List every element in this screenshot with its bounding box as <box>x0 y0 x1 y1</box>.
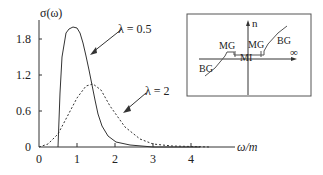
inset-bg-right-label: BG <box>277 35 291 47</box>
inset-mg-left-label: MG <box>219 40 235 52</box>
y-tick-label-1-2: 1.2 <box>16 69 31 81</box>
x-tick-label-2: 2 <box>112 153 118 165</box>
x-tick-label-3: 3 <box>150 153 156 165</box>
x-tick-label-1: 1 <box>74 153 80 165</box>
y-axis-label: σ(ω) <box>40 7 62 19</box>
chart-figure: σ(ω) 1.8 1.2 0.6 0 0 1 2 3 4 ω/m λ = 0.5… <box>0 0 323 175</box>
series-lambda-0-5 <box>58 27 200 147</box>
x-axis-label: ω/m <box>237 141 257 153</box>
y-tick-label-0-6: 0.6 <box>16 105 31 117</box>
y-tick-label-1-8: 1.8 <box>16 33 31 45</box>
inset-bg-left-label: BG <box>199 63 213 75</box>
x-tick-label-0: 0 <box>36 153 42 165</box>
inset-mg-right-label: MG <box>248 39 264 51</box>
inset-infinity-label: ∞ <box>290 46 298 58</box>
annotation-lambda-0-5: λ = 0.5 <box>118 23 152 35</box>
annotation-lambda-2: λ = 2 <box>145 85 170 97</box>
inset-mi-label: MI <box>240 52 252 64</box>
inset-n-label: n <box>252 17 258 29</box>
y-tick-label-0: 0 <box>25 141 31 153</box>
x-tick-label-4: 4 <box>188 153 194 165</box>
series-lambda-2 <box>39 84 210 147</box>
